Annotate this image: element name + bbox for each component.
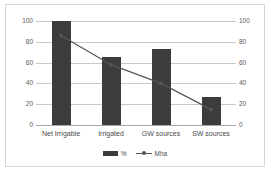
- legend-item-percent: %: [103, 151, 127, 158]
- line-series-mha: [36, 21, 236, 125]
- legend-line-swatch-icon: [136, 151, 152, 156]
- line-marker: [109, 63, 113, 67]
- line-marker: [59, 34, 63, 38]
- y-axis-right-tick-label: 100: [239, 18, 250, 25]
- legend-item-mha: Mha: [136, 151, 168, 158]
- y-axis-left-tick-label: 0: [29, 122, 33, 129]
- x-axis-category-label: SW sources: [192, 130, 230, 137]
- chart-legend: % Mha: [6, 151, 264, 158]
- x-axis-category-label: Irrigated: [98, 130, 124, 137]
- x-axis-category-label: Net Irrigable: [42, 130, 80, 137]
- y-axis-right-tick-label: 20: [239, 101, 246, 108]
- gridline: [36, 125, 236, 126]
- line-markers: [59, 34, 213, 112]
- y-axis-left-tick-label: 80: [26, 39, 33, 46]
- legend-label-mha: Mha: [155, 151, 168, 158]
- line-path: [61, 36, 211, 110]
- line-marker: [209, 107, 213, 111]
- y-axis-left-tick-label: 40: [26, 80, 33, 87]
- legend-bar-swatch-icon: [103, 151, 118, 156]
- y-axis-left-tick-label: 100: [22, 18, 33, 25]
- legend-label-percent: %: [121, 151, 127, 158]
- y-axis-left-tick-label: 60: [26, 60, 33, 67]
- y-axis-right-tick-label: 60: [239, 60, 246, 67]
- x-axis-category-label: GW sources: [142, 130, 181, 137]
- line-marker: [159, 81, 163, 85]
- y-axis-right-tick-label: 40: [239, 80, 246, 87]
- y-axis-left-tick-label: 20: [26, 101, 33, 108]
- y-axis-right-tick-label: 0: [239, 122, 243, 129]
- plot-area: 020406080100 020406080100 Net IrrigableI…: [36, 21, 236, 125]
- chart-container: 020406080100 020406080100 Net IrrigableI…: [5, 4, 265, 167]
- y-axis-right-tick-label: 80: [239, 39, 246, 46]
